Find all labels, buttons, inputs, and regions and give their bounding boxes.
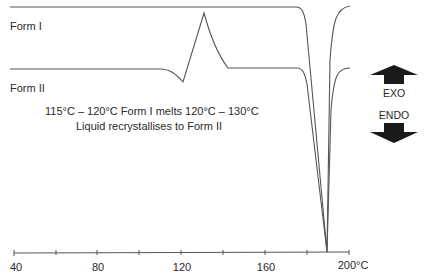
form-2-curve	[10, 13, 350, 252]
x-tick-label-40: 40	[10, 261, 22, 273]
exo-label: EXO	[383, 87, 405, 99]
exo-arrow-icon	[370, 65, 418, 84]
form-2-label: Form II	[10, 82, 45, 94]
endo-label: ENDO	[379, 109, 409, 121]
x-tick-label-120: 120	[173, 261, 191, 273]
annotation-line-2: Liquid recrystallises to Form II	[76, 120, 222, 132]
dsc-chart	[0, 0, 428, 279]
annotation-line-1: 115°C – 120°C Form I melts 120°C – 130°C	[45, 105, 259, 117]
x-tick-label-80: 80	[92, 261, 104, 273]
x-tick-label-200: 200°C	[338, 259, 369, 271]
form-1-label: Form I	[10, 20, 42, 32]
x-tick-label-160: 160	[257, 261, 275, 273]
x-axis	[14, 250, 349, 256]
endo-arrow-icon	[370, 123, 418, 143]
